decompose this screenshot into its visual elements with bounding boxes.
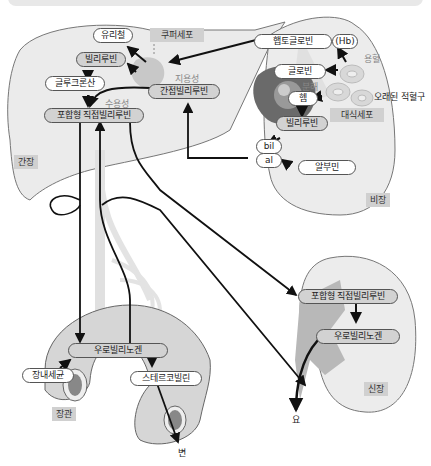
urine-label: 요	[292, 413, 300, 426]
intestine-urobilinogen-node: 우로빌리노겐	[68, 343, 168, 358]
haptoglobin-node: 햅토글로빈	[254, 34, 332, 49]
diagram-shapes	[0, 0, 431, 466]
kidney-direct-bilirubin-node: 포합형 직접빌리루빈	[298, 289, 398, 304]
hb-node: (Hb)	[332, 34, 358, 49]
glucuronic-acid-node: 글루크론산	[45, 76, 105, 91]
liver-bilirubin-node: 빌리루빈	[76, 52, 126, 67]
heme-node: 헴	[288, 91, 318, 106]
spleen-tag: 비장	[366, 193, 390, 207]
albumin-node: 알부민	[298, 160, 356, 175]
spleen-bilirubin-node: 빌리루빈	[276, 116, 328, 131]
indirect-bilirubin-node: 간접빌리루빈	[148, 84, 220, 99]
intestine-tag: 장관	[52, 407, 76, 421]
hemolysis-label: 용혈	[364, 52, 380, 65]
intestinal-bacteria-node: 장내세균	[22, 368, 74, 383]
stercobilin-node: 스테르코빌린	[130, 371, 202, 386]
conjugated-direct-bilirubin-node: 포합형 직접빌리루빈	[44, 108, 144, 123]
free-iron-node: 유리철	[93, 28, 133, 43]
al-node: al	[256, 153, 282, 168]
kidney-tag: 신장	[364, 382, 388, 396]
kidney-urobilinogen-node: 우로빌리노겐	[316, 329, 400, 344]
globin-node: 글로빈	[274, 64, 326, 79]
bil-node: bil	[256, 139, 282, 154]
kupffer-cell-tag: 쿠퍼세포	[150, 28, 204, 42]
macrophage-tag: 대식세포	[330, 108, 384, 122]
liver-tag: 간장	[14, 155, 38, 169]
feces-label: 변	[178, 446, 186, 459]
old-rbc-label: 오래된 적혈구	[374, 90, 425, 103]
bilirubin-metabolism-diagram: 빌리루빈 대사	[0, 0, 431, 466]
